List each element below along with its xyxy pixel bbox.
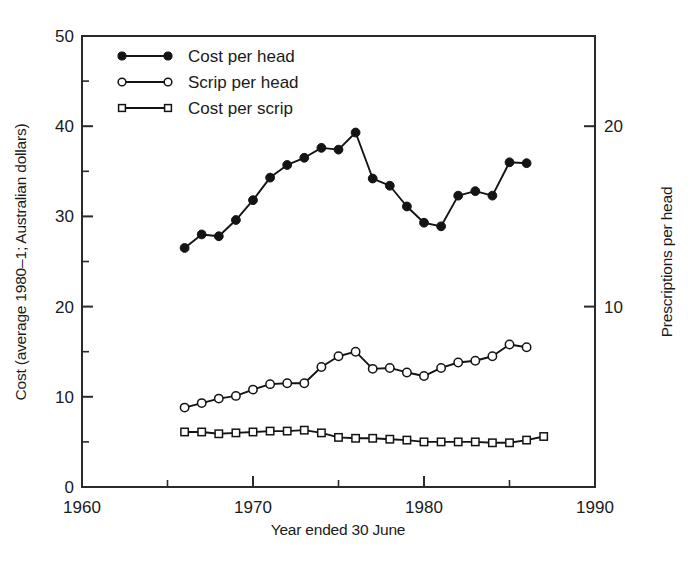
x-axis-title: Year ended 30 June (271, 521, 406, 538)
data-point-open-square (301, 426, 308, 433)
data-point-filled-circle (283, 161, 292, 170)
data-point-open-circle (283, 379, 291, 387)
data-point-open-square (284, 427, 291, 434)
data-point-filled-circle (454, 191, 463, 200)
data-point-filled-circle (471, 187, 480, 196)
data-point-open-circle (488, 352, 496, 360)
data-point-open-square (386, 435, 393, 442)
data-point-filled-circle (214, 232, 223, 241)
x-tick-label: 1980 (405, 498, 443, 517)
chart-legend: Cost per headScrip per headCost per scri… (118, 47, 299, 118)
data-point-open-circle (334, 352, 342, 360)
data-point-open-circle (369, 365, 377, 373)
y-axis-right-tick-labels: 1020 (604, 117, 623, 316)
data-point-open-circle (300, 379, 308, 387)
data-point-open-circle (317, 363, 325, 371)
data-point-open-square (335, 434, 342, 441)
y-tick-label: 10 (55, 388, 74, 407)
data-point-filled-circle (488, 191, 497, 200)
y-axis-right-ticks (584, 126, 595, 306)
data-point-open-circle (522, 343, 530, 351)
data-point-open-square (119, 105, 126, 112)
data-point-filled-circle (334, 145, 343, 154)
y-right-tick-label: 20 (604, 117, 623, 136)
y-axis-left-title: Cost (average 1980–1; Australian dollars… (12, 123, 29, 400)
data-point-open-square (420, 438, 427, 445)
data-point-open-circle (351, 348, 359, 356)
data-point-open-circle (164, 78, 172, 86)
data-point-open-circle (403, 368, 411, 376)
data-point-filled-circle (232, 216, 241, 225)
data-point-open-circle (471, 357, 479, 365)
data-point-open-circle (420, 372, 428, 380)
data-point-open-square (249, 428, 256, 435)
x-tick-label: 1960 (63, 498, 101, 517)
data-point-open-circle (386, 364, 394, 372)
data-point-open-square (540, 433, 547, 440)
data-point-filled-circle (118, 52, 126, 60)
data-point-open-circle (266, 380, 274, 388)
data-point-filled-circle (522, 159, 531, 168)
data-point-open-square (266, 427, 273, 434)
y-tick-label: 50 (55, 27, 74, 46)
data-point-open-circle (180, 403, 188, 411)
series-cost-per-scrip (181, 426, 548, 446)
data-point-open-circle (505, 340, 513, 348)
data-point-open-circle (198, 399, 206, 407)
plot-frame (82, 36, 595, 487)
y-axis-right-title: Prescriptions per head (658, 187, 675, 338)
y-tick-label: 30 (55, 207, 74, 226)
y-tick-label: 0 (65, 478, 74, 497)
data-point-filled-circle (300, 153, 309, 162)
plot-border (82, 36, 595, 487)
data-point-open-circle (215, 394, 223, 402)
data-point-open-square (489, 439, 496, 446)
x-tick-label: 1990 (576, 498, 614, 517)
data-point-open-circle (232, 392, 240, 400)
data-point-filled-circle (368, 174, 377, 183)
data-point-open-square (215, 430, 222, 437)
y-tick-label: 20 (55, 298, 74, 317)
data-point-open-square (506, 439, 513, 446)
data-point-open-square (472, 438, 479, 445)
legend-item-cost-per-scrip: Cost per scrip (119, 99, 293, 118)
data-point-open-square (369, 435, 376, 442)
data-point-filled-circle (197, 230, 206, 239)
y-right-tick-label: 10 (604, 298, 623, 317)
legend-label: Cost per scrip (188, 99, 293, 118)
data-point-open-square (352, 435, 359, 442)
x-tick-label: 1970 (234, 498, 272, 517)
chart-figure: 01020304050 1020 1960197019801990 Cost p… (0, 0, 693, 564)
data-point-filled-circle (249, 196, 258, 205)
data-point-filled-circle (317, 143, 326, 152)
data-point-open-square (165, 105, 172, 112)
legend-item-scrip-per-head: Scrip per head (118, 73, 298, 92)
data-point-open-square (403, 436, 410, 443)
data-point-filled-circle (437, 222, 446, 231)
series-cost-per-head (180, 128, 531, 252)
data-point-filled-circle (403, 202, 412, 211)
data-point-open-square (523, 436, 530, 443)
data-point-open-circle (454, 358, 462, 366)
data-point-open-square (198, 428, 205, 435)
data-point-filled-circle (351, 128, 360, 137)
data-series-layer (180, 128, 547, 446)
y-tick-label: 40 (55, 117, 74, 136)
data-point-filled-circle (180, 244, 189, 253)
data-point-open-square (181, 428, 188, 435)
x-axis-ticks (168, 476, 510, 487)
y-axis-left-tick-labels: 01020304050 (55, 27, 74, 497)
data-point-filled-circle (164, 52, 172, 60)
legend-label: Scrip per head (188, 73, 299, 92)
data-point-open-square (437, 438, 444, 445)
legend-label: Cost per head (188, 47, 295, 66)
x-axis-tick-labels: 1960197019801990 (63, 498, 614, 517)
y-axis-left-ticks (82, 36, 93, 487)
data-point-open-square (455, 438, 462, 445)
legend-item-cost-per-head: Cost per head (118, 47, 295, 66)
data-point-filled-circle (420, 218, 429, 227)
data-point-filled-circle (505, 158, 514, 167)
data-point-open-square (318, 429, 325, 436)
data-point-open-square (232, 429, 239, 436)
data-point-open-circle (118, 78, 126, 86)
